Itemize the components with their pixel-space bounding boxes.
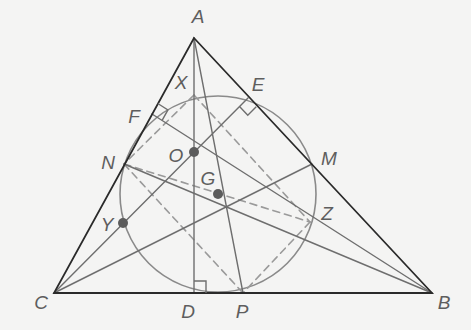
right-angle-mark-E [240, 107, 257, 116]
label-X: X [175, 73, 188, 92]
median-CM [54, 164, 312, 293]
label-Y: Y [101, 215, 114, 234]
label-M: M [321, 149, 337, 168]
label-F: F [128, 107, 140, 126]
label-P: P [236, 302, 249, 321]
point-dot-O [189, 147, 199, 157]
point-dot-Y [118, 218, 128, 228]
point-dot-G [213, 189, 223, 199]
label-Z: Z [321, 204, 333, 223]
label-N: N [101, 153, 115, 172]
label-G: G [201, 169, 216, 188]
label-B: B [438, 293, 451, 312]
label-D: D [181, 302, 195, 321]
median-BN [124, 164, 432, 293]
diagram-canvas [0, 0, 471, 330]
nine-point-circle-diagram: A B C D E F M N P X Y Z O G [0, 0, 471, 330]
label-C: C [34, 293, 48, 312]
median-AP [194, 38, 243, 293]
label-E: E [252, 75, 265, 94]
label-O: O [169, 146, 184, 165]
dashed-segment-ZP [243, 222, 310, 293]
dashed-segment-XZ [194, 95, 310, 222]
label-A: A [192, 7, 205, 26]
